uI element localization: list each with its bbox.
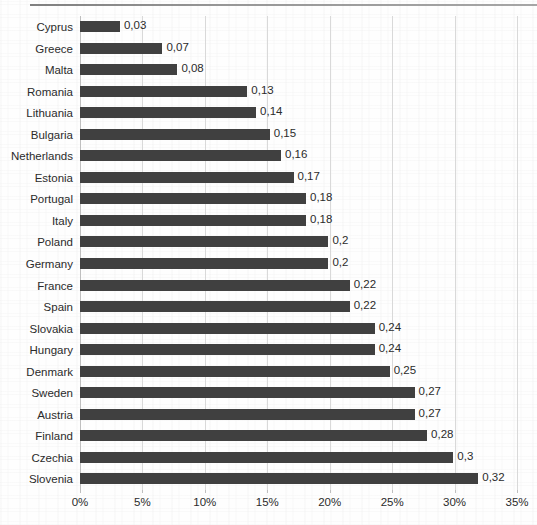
bar-chart: CyprusGreeceMaltaRomaniaLithuaniaBulgari…	[0, 0, 537, 525]
x-tick-mark	[392, 490, 393, 493]
bar-row[interactable]: 0,13	[80, 81, 517, 103]
category-label: Estonia	[4, 167, 80, 189]
bar-value-label: 0,16	[281, 147, 307, 162]
x-tick-label: 25%	[381, 496, 404, 508]
bar-row[interactable]: 0,17	[80, 167, 517, 189]
bar[interactable]	[80, 236, 328, 247]
bar-row[interactable]: 0,22	[80, 296, 517, 318]
category-label: Spain	[4, 296, 80, 318]
bar[interactable]	[80, 344, 375, 355]
bar-row[interactable]: 0,3	[80, 447, 517, 469]
bar-value-label: 0,03	[120, 18, 146, 33]
bar-row[interactable]: 0,24	[80, 339, 517, 361]
bar[interactable]	[80, 280, 350, 291]
category-label: Greece	[4, 38, 80, 60]
bar[interactable]	[80, 473, 478, 484]
bar-row[interactable]: 0,24	[80, 318, 517, 340]
bar[interactable]	[80, 21, 120, 32]
bar-row[interactable]: 0,07	[80, 38, 517, 60]
bar-value-label: 0,27	[415, 406, 441, 421]
bar-value-label: 0,2	[328, 233, 348, 248]
bar-row[interactable]: 0,03	[80, 16, 517, 38]
bar-row[interactable]: 0,15	[80, 124, 517, 146]
bar-value-label: 0,15	[270, 126, 296, 141]
category-label: Czechia	[4, 447, 80, 469]
bar[interactable]	[80, 150, 281, 161]
plot-area: 0,030,070,080,130,140,150,160,170,180,18…	[80, 16, 517, 490]
bar-value-label: 0,25	[390, 363, 416, 378]
bar[interactable]	[80, 215, 306, 226]
bar[interactable]	[80, 193, 306, 204]
bar-value-label: 0,32	[478, 470, 504, 485]
bar-row[interactable]: 0,2	[80, 253, 517, 275]
bar[interactable]	[80, 323, 375, 334]
bar-row[interactable]: 0,08	[80, 59, 517, 81]
bar-value-label: 0,24	[375, 341, 401, 356]
category-label: Portugal	[4, 188, 80, 210]
bar-row[interactable]: 0,2	[80, 231, 517, 253]
x-tick-label: 30%	[443, 496, 466, 508]
bar-value-label: 0,22	[350, 298, 376, 313]
category-axis: CyprusGreeceMaltaRomaniaLithuaniaBulgari…	[0, 16, 80, 490]
bar[interactable]	[80, 86, 247, 97]
bar-value-label: 0,14	[256, 104, 282, 119]
x-tick-label: 5%	[134, 496, 151, 508]
bar[interactable]	[80, 172, 294, 183]
bar-value-label: 0,2	[328, 255, 348, 270]
category-label: Netherlands	[4, 145, 80, 167]
bar-value-label: 0,22	[350, 277, 376, 292]
category-label: Slovakia	[4, 318, 80, 340]
bar-value-label: 0,27	[415, 384, 441, 399]
scanned-page: CyprusGreeceMaltaRomaniaLithuaniaBulgari…	[0, 0, 537, 525]
category-label: Cyprus	[4, 16, 80, 38]
bar[interactable]	[80, 107, 256, 118]
bar-row[interactable]: 0,14	[80, 102, 517, 124]
bar[interactable]	[80, 387, 415, 398]
x-tick-mark	[455, 490, 456, 493]
bar[interactable]	[80, 366, 390, 377]
x-axis: 0%5%10%15%20%25%30%35%	[80, 492, 517, 512]
bar-row[interactable]: 0,25	[80, 361, 517, 383]
category-label: Malta	[4, 59, 80, 81]
bar-value-label: 0,24	[375, 320, 401, 335]
category-label: Austria	[4, 404, 80, 426]
category-label: Sweden	[4, 382, 80, 404]
bar-value-label: 0,07	[162, 40, 188, 55]
x-tick-label: 20%	[318, 496, 341, 508]
bar[interactable]	[80, 64, 177, 75]
bar[interactable]	[80, 409, 415, 420]
bar[interactable]	[80, 43, 162, 54]
bar-value-label: 0,17	[294, 169, 320, 184]
x-tick-label: 35%	[505, 496, 528, 508]
bar[interactable]	[80, 301, 350, 312]
bar[interactable]	[80, 258, 328, 269]
bar[interactable]	[80, 430, 427, 441]
bar-value-label: 0,18	[306, 190, 332, 205]
bar-row[interactable]: 0,16	[80, 145, 517, 167]
category-label: Germany	[4, 253, 80, 275]
gridline-35%	[517, 16, 518, 490]
x-tick-mark	[517, 490, 518, 493]
bar-value-label: 0,28	[427, 427, 453, 442]
category-label: France	[4, 275, 80, 297]
bar-value-label: 0,18	[306, 212, 332, 227]
bar-value-label: 0,08	[177, 61, 203, 76]
category-label: Finland	[4, 425, 80, 447]
bar-row[interactable]: 0,27	[80, 404, 517, 426]
x-tick-mark	[205, 490, 206, 493]
bar-row[interactable]: 0,32	[80, 468, 517, 490]
bar-row[interactable]: 0,22	[80, 275, 517, 297]
category-label: Slovenia	[4, 468, 80, 490]
bar-row[interactable]: 0,27	[80, 382, 517, 404]
x-tick-mark	[80, 490, 81, 493]
category-label: Romania	[4, 81, 80, 103]
x-tick-label: 10%	[193, 496, 216, 508]
bar[interactable]	[80, 452, 453, 463]
bar-row[interactable]: 0,18	[80, 210, 517, 232]
bar[interactable]	[80, 129, 270, 140]
bar-row[interactable]: 0,28	[80, 425, 517, 447]
x-tick-mark	[330, 490, 331, 493]
bar-row[interactable]: 0,18	[80, 188, 517, 210]
category-label: Hungary	[4, 339, 80, 361]
bar-value-label: 0,3	[453, 449, 473, 464]
